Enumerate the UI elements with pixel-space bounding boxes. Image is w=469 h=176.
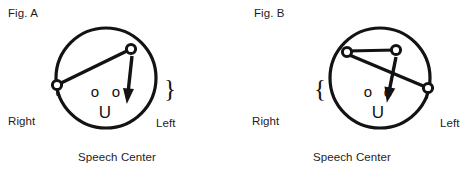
node-top-left: [342, 47, 351, 56]
label-right: Right: [252, 115, 279, 128]
arrow-head-icon: [123, 88, 134, 104]
brace-left-icon: {: [314, 76, 326, 101]
connector-top-line: [347, 50, 396, 51]
figure-page: Fig. A o o U } Right Left Speech Center: [0, 0, 469, 176]
label-left: Left: [156, 117, 176, 130]
node-tail: [57, 89, 58, 95]
figure-b-diagram: o o U: [235, 0, 469, 176]
node-right-edge: [423, 83, 432, 92]
node-top: [126, 44, 135, 53]
figure-b: Fig. B o o U { Right Left Speech Center: [235, 0, 469, 176]
label-left: Left: [440, 117, 460, 130]
node-top-right: [391, 45, 400, 54]
caption-speech-center: Speech Center: [235, 151, 469, 164]
eye-left: o: [364, 83, 372, 100]
mouth: U: [99, 103, 111, 122]
mouth: U: [372, 103, 384, 122]
label-right: Right: [8, 115, 35, 128]
connector-line: [57, 49, 131, 85]
eye-right: o: [112, 83, 120, 100]
eye-left: o: [91, 83, 99, 100]
figure-a-diagram: o o U: [0, 0, 234, 176]
arrow-shaft: [128, 56, 132, 90]
brace-right-icon: }: [164, 76, 176, 101]
eye-right: o: [384, 83, 392, 100]
caption-speech-center: Speech Center: [0, 151, 234, 164]
figure-a: Fig. A o o U } Right Left Speech Center: [0, 0, 234, 176]
